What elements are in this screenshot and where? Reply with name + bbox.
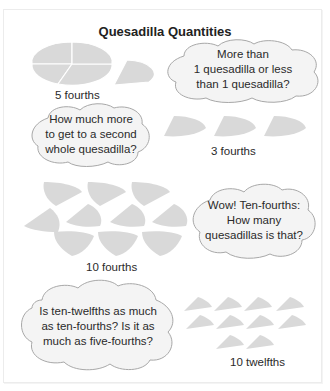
cloud-line: Is ten-twelfths as much [18,304,178,319]
cloud-line: 1 quesadilla or less [162,62,324,77]
question-cloud-more-or-less: More than 1 quesadilla or less than 1 qu… [162,38,324,104]
ten-twelfths-illustration [182,295,312,361]
question-cloud-how-much-more: How much more to get to a second whole q… [30,102,152,168]
question-cloud-ten-twelfths: Is ten-twelfths as much as ten-fourths? … [18,278,178,372]
ten-fourths-label: 10 fourths [86,261,137,273]
cloud-line: to get to a second [30,127,152,142]
cloud-line: quesadillas is that? [190,228,318,243]
five-fourths-label: 5 fourths [55,89,100,101]
three-fourths-illustration [160,114,310,144]
figure-title: Quesadilla Quantities [0,24,330,39]
cloud-line: than 1 quesadilla? [162,77,324,92]
cloud-line: whole quesadilla? [30,142,152,157]
ten-fourths-illustration [22,180,192,264]
cloud-line: Wow! Ten-fourths: [190,198,318,213]
cloud-line: How much more [30,112,152,127]
cloud-line: How many [190,213,318,228]
ten-twelfths-label: 10 twelfths [230,356,285,368]
three-fourths-label: 3 fourths [211,145,256,157]
cloud-line: much as five-fourths? [18,334,178,349]
cloud-line: as ten-fourths? Is it as [18,319,178,334]
five-fourths-illustration [24,40,154,94]
cloud-line: More than [162,47,324,62]
question-cloud-ten-fourths: Wow! Ten-fourths: How many quesadillas i… [190,182,318,260]
